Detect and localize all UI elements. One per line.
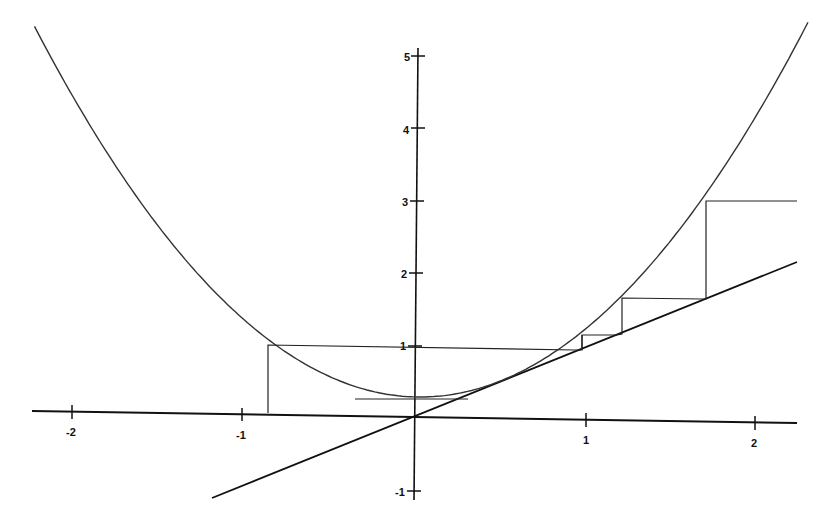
y-tick-label: 3 — [402, 196, 408, 208]
y-axis — [414, 48, 418, 500]
y-ticks — [407, 56, 425, 491]
x-tick-label: -2 — [66, 426, 76, 438]
cobweb-plot: -2 -1 1 2 5 4 3 2 1 -1 — [0, 0, 832, 525]
x-tick-label: -1 — [236, 429, 246, 441]
parabola-curve — [35, 22, 809, 397]
y-tick-label: 5 — [404, 51, 410, 63]
y-tick-label: -1 — [395, 486, 405, 498]
y-tick-label: 2 — [401, 268, 407, 280]
x-tick-label: 2 — [751, 437, 757, 449]
y-tick-label: 4 — [403, 124, 410, 136]
x-tick-label: 1 — [583, 434, 589, 446]
y-tick-label: 1 — [400, 340, 406, 352]
cobweb-path — [268, 201, 797, 413]
